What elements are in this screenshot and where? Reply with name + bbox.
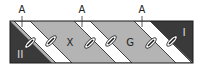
diagram-canvas: A A A II X G I bbox=[0, 0, 203, 69]
label-region-i: I bbox=[182, 26, 185, 39]
label-a-3: A bbox=[139, 4, 146, 15]
label-a-2: A bbox=[79, 4, 86, 15]
label-region-ii: II bbox=[17, 48, 24, 61]
band-strip bbox=[10, 21, 193, 63]
label-a-1: A bbox=[19, 4, 26, 15]
label-region-x: X bbox=[67, 37, 74, 48]
label-region-g: G bbox=[126, 37, 134, 48]
